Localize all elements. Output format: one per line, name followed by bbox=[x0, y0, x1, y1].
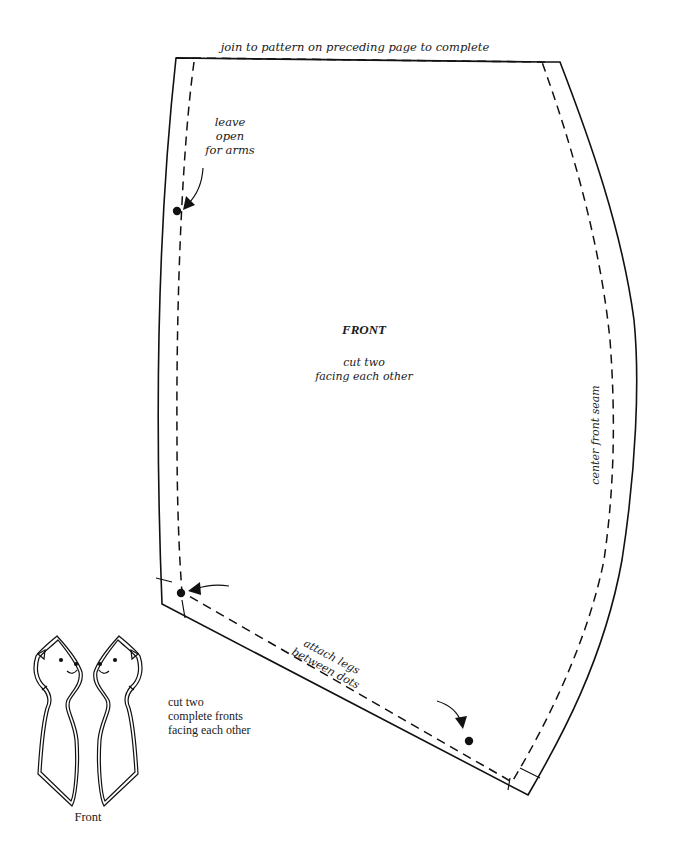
center-front-seam-label: center front seam bbox=[589, 385, 602, 485]
leg-end-arrow-icon bbox=[437, 701, 467, 729]
piece-title: FRONT bbox=[341, 322, 387, 337]
thumbnail-instruction-line-2: complete fronts bbox=[168, 709, 243, 723]
pattern-seam-line bbox=[177, 62, 613, 782]
piece-instruction-line-2: facing each other bbox=[314, 370, 413, 383]
leg-start-arrow-icon bbox=[188, 582, 229, 595]
arm-arrow-icon bbox=[183, 168, 203, 210]
arm-note-line-1: leave bbox=[215, 115, 246, 129]
corner-mark-bottom-left bbox=[156, 578, 185, 618]
thumbnail-left-front bbox=[34, 636, 82, 806]
thumbnail-instruction-line-1: cut two bbox=[168, 695, 204, 709]
pattern-cut-outline bbox=[158, 58, 636, 795]
arm-opening-dot bbox=[173, 207, 181, 215]
piece-instruction-line-1: cut two bbox=[343, 356, 385, 369]
arm-note-line-2: open bbox=[216, 129, 245, 143]
arm-note-line-3: for arms bbox=[204, 143, 255, 157]
thumbnail-right-front bbox=[94, 636, 142, 806]
pattern-sheet: join to pattern on preceding page to com… bbox=[0, 0, 680, 855]
thumbnail-instruction-line-3: facing each other bbox=[168, 723, 251, 737]
leg-end-dot bbox=[465, 737, 473, 745]
thumbnail-caption: Front bbox=[74, 810, 102, 824]
leg-start-dot bbox=[177, 589, 185, 597]
top-join-note: join to pattern on preceding page to com… bbox=[218, 40, 490, 54]
front-thumbnail: Front bbox=[34, 636, 142, 824]
